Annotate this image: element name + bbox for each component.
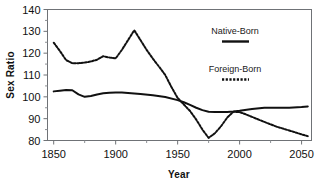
x-axis-title: Year <box>168 169 190 180</box>
y-tick-label: 120 <box>22 47 40 59</box>
y-tick-label: 100 <box>22 91 40 103</box>
x-tick-label: 2000 <box>227 148 251 160</box>
x-axis-tick-labels: 18501900195020002050 <box>41 148 313 160</box>
y-tick-label: 110 <box>23 69 41 81</box>
x-tick-label: 1950 <box>165 148 189 160</box>
y-tick-label: 130 <box>22 25 40 37</box>
series-line-native-born <box>54 90 308 112</box>
y-tick-label: 80 <box>28 135 40 147</box>
series-line-foreign-born <box>54 30 308 138</box>
y-tick-label: 140 <box>22 4 40 16</box>
y-tick-label: 90 <box>28 113 40 125</box>
x-tick-label: 1850 <box>41 148 65 160</box>
y-axis-tick-labels: 8090100110120130140 <box>22 4 40 147</box>
sex-ratio-line-chart: 8090100110120130140 18501900195020002050… <box>0 0 318 183</box>
y-axis-title: Sex Ratio <box>5 51 16 98</box>
x-tick-label: 1900 <box>103 148 127 160</box>
chart-legend: Native-Born Foreign-Born <box>209 26 262 80</box>
x-axis-ticks <box>54 141 302 145</box>
legend-label-native-born: Native-Born <box>211 26 259 36</box>
plot-frame <box>48 10 312 141</box>
y-axis-ticks <box>44 10 48 141</box>
legend-label-foreign-born: Foreign-Born <box>209 64 262 74</box>
chart-figure: 8090100110120130140 18501900195020002050… <box>0 0 318 183</box>
x-tick-label: 2050 <box>289 148 313 160</box>
